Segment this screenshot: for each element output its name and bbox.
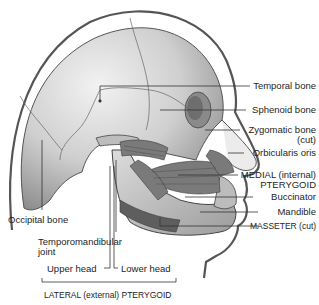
label-buccinator: Buccinator bbox=[253, 192, 316, 202]
label-occipital-bone: Occipital bone bbox=[8, 215, 68, 225]
label-zygomatic-bone-cut: (cut) bbox=[240, 135, 316, 145]
label-upper-head: Upper head bbox=[47, 264, 97, 274]
label-masseter: MASSETER (cut) bbox=[250, 221, 316, 231]
label-sphenoid-bone: Sphenoid bone bbox=[246, 105, 316, 115]
label-mandible: Mandible bbox=[258, 207, 316, 217]
label-lateral-pterygoid: LATERAL (external) PTERYGOID bbox=[44, 290, 171, 300]
label-medial-pterygoid-2: PTERYGOID bbox=[238, 180, 316, 190]
label-lower-head: Lower head bbox=[121, 264, 171, 274]
label-temporomandibular-joint-2: joint bbox=[38, 247, 55, 257]
label-orbicularis-oris: Orbicularis oris bbox=[244, 148, 316, 158]
label-temporal-bone: Temporal bone bbox=[250, 81, 316, 91]
